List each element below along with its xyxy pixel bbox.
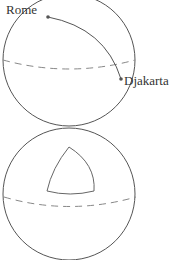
label-rome: Rome (6, 3, 37, 16)
top-sphere-outline (3, 0, 135, 126)
djakarta-point (119, 77, 123, 81)
label-djakarta: Djakarta (124, 74, 169, 87)
great-circle-arc (48, 17, 121, 79)
rome-point (46, 15, 50, 19)
spherical-triangle (47, 147, 94, 194)
bottom-sphere (3, 128, 136, 260)
bottom-sphere-equator (4, 197, 136, 207)
spheres-diagram (0, 0, 179, 260)
top-sphere (3, 0, 135, 126)
